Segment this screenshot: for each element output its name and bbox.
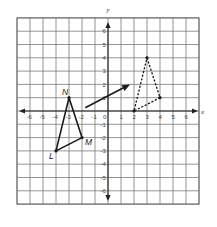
vertex-label-n: N <box>62 87 69 97</box>
vertex-point <box>54 149 57 152</box>
y-tick-label: -4 <box>101 161 107 167</box>
vertex-label-m: M <box>85 137 93 147</box>
x-tick-label: -1 <box>92 114 98 120</box>
x-tick-label: 3 <box>145 114 149 120</box>
vertex-point <box>132 109 135 112</box>
y-axis-up-arrow-icon <box>105 22 110 28</box>
x-axis-right-arrow-icon <box>192 108 198 113</box>
y-tick-label: -6 <box>101 188 107 194</box>
x-tick-label: 2 <box>132 114 136 120</box>
vertex-point <box>145 56 148 59</box>
x-axis-label: x <box>200 108 205 116</box>
y-axis-down-arrow-icon <box>105 195 110 201</box>
x-tick-label: 4 <box>158 114 162 120</box>
vertex-label-l: L <box>49 151 54 161</box>
x-tick-label: -3 <box>66 114 72 120</box>
y-tick-label: -3 <box>101 148 107 154</box>
x-tick-label: -2 <box>79 114 85 120</box>
y-tick-label: -5 <box>101 175 107 181</box>
arrow-head-icon <box>122 84 131 91</box>
x-axis-left-arrow-icon <box>19 108 25 113</box>
x-tick-label: 1 <box>119 114 123 120</box>
vertex-point <box>158 96 161 99</box>
axes: xy <box>19 6 205 201</box>
vertex-point <box>80 136 83 139</box>
y-tick-label: -1 <box>101 122 107 128</box>
x-tick-label: -4 <box>53 114 59 120</box>
x-tick-label: -5 <box>40 114 46 120</box>
x-tick-label: 5 <box>171 114 175 120</box>
x-tick-label: 6 <box>184 114 188 120</box>
y-axis-label: y <box>106 6 111 14</box>
x-tick-label: -6 <box>27 114 33 120</box>
y-tick-label: -2 <box>101 135 107 141</box>
coordinate-plane-diagram: xy -6-5-4-3-2-10123456654321-1-2-3-4-5-6… <box>0 0 217 227</box>
x-tick-label: 0 <box>103 114 107 120</box>
